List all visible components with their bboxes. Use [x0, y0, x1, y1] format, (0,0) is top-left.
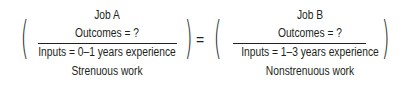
job-a-work-type: Strenuous work	[71, 64, 142, 78]
job-b-title: Job B	[297, 8, 323, 22]
right-open-paren: (	[214, 16, 222, 60]
equals-sign: =	[196, 32, 204, 48]
job-b-work-type: Nonstrenuous work	[266, 64, 354, 78]
job-b-inputs: Inputs = 1–3 years experience	[241, 45, 379, 59]
left-open-paren: (	[21, 16, 29, 60]
right-close-paren: )	[382, 16, 390, 60]
job-a-title: Job A	[94, 8, 120, 22]
job-b-fraction-bar	[233, 43, 366, 44]
job-b-outcomes: Outcomes = ?	[278, 26, 342, 40]
job-a-outcomes: Outcomes = ?	[75, 26, 139, 40]
left-close-paren: )	[185, 16, 193, 60]
job-a-inputs: Inputs = 0–1 years experience	[38, 45, 176, 59]
job-a-fraction-bar	[38, 43, 177, 44]
